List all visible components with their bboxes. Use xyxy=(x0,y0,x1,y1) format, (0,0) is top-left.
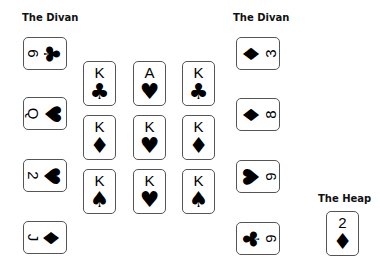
heart-icon: ♥ xyxy=(140,135,160,157)
card-rank: K xyxy=(144,173,154,188)
club-icon: ♣ xyxy=(241,229,263,249)
center-card[interactable]: K ♦ xyxy=(182,115,215,160)
diamond-icon: ♦ xyxy=(39,228,61,248)
card-rank: K xyxy=(193,173,203,188)
right-divan-card[interactable]: ♦ 3 xyxy=(236,37,280,70)
diamond-icon: ♦ xyxy=(241,105,263,125)
diamond-icon: ♦ xyxy=(90,135,110,157)
club-icon: ♣ xyxy=(90,81,110,103)
card-rank: K xyxy=(94,173,104,188)
card-rank: K xyxy=(193,65,203,80)
card-rank: 8 xyxy=(262,110,277,118)
center-card[interactable]: K ♠ xyxy=(182,169,215,214)
card-rank: 9 xyxy=(262,172,277,180)
left-divan-card[interactable]: 6 ♣ xyxy=(23,37,67,70)
heart-icon: ♥ xyxy=(40,166,62,186)
heap-label: The Heap xyxy=(318,193,371,204)
heart-icon: ♥ xyxy=(140,81,160,103)
club-icon: ♣ xyxy=(40,44,62,64)
diamond-icon: ♦ xyxy=(189,135,209,157)
heart-icon: ♥ xyxy=(241,167,263,187)
left-divan-card[interactable]: 2 ♥ xyxy=(23,159,67,192)
card-rank: 3 xyxy=(262,49,277,57)
card-rank: 2 xyxy=(338,215,346,230)
center-card[interactable]: A ♥ xyxy=(133,61,166,106)
right-divan-card[interactable]: ♥ 9 xyxy=(236,160,280,193)
right-divan-card[interactable]: ♣ 9 xyxy=(236,222,280,255)
club-icon: ♣ xyxy=(189,81,209,103)
card-rank: K xyxy=(94,65,104,80)
heap-card[interactable]: 2 ♦ xyxy=(326,211,359,256)
diamond-icon: ♦ xyxy=(333,231,353,253)
center-card[interactable]: K ♣ xyxy=(83,61,116,106)
card-rank: A xyxy=(144,65,154,80)
card-rank: 9 xyxy=(262,234,277,242)
spade-icon: ♠ xyxy=(189,189,209,211)
center-card[interactable]: K ♥ xyxy=(133,169,166,214)
heart-icon: ♥ xyxy=(140,189,160,211)
diamond-icon: ♦ xyxy=(241,44,263,64)
center-card[interactable]: K ♠ xyxy=(83,169,116,214)
center-card[interactable]: K ♦ xyxy=(83,115,116,160)
right-divan-card[interactable]: ♦ 8 xyxy=(236,98,280,131)
heart-icon: ♥ xyxy=(41,104,63,124)
left-divan-card[interactable]: J ♦ xyxy=(23,221,67,254)
card-rank: K xyxy=(144,119,154,134)
right-divan-label: The Divan xyxy=(233,12,289,23)
left-divan-card[interactable]: Q ♥ xyxy=(23,97,67,130)
center-card[interactable]: K ♣ xyxy=(182,61,215,106)
center-card[interactable]: K ♥ xyxy=(133,115,166,160)
card-rank: K xyxy=(94,119,104,134)
left-divan-label: The Divan xyxy=(22,12,78,23)
spade-icon: ♠ xyxy=(90,189,110,211)
card-rank: K xyxy=(193,119,203,134)
